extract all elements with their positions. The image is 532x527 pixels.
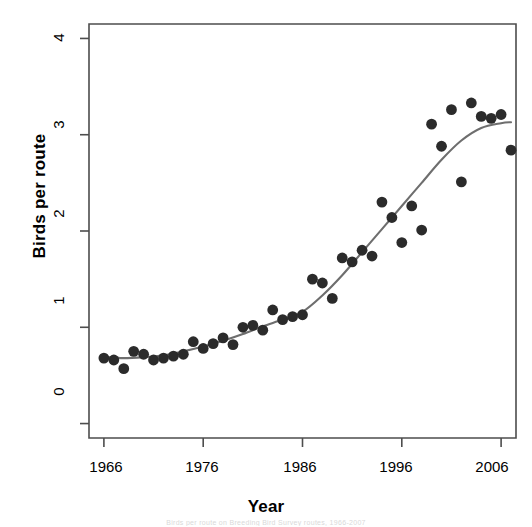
data-point xyxy=(456,177,467,188)
data-point xyxy=(307,274,318,285)
data-point xyxy=(287,311,298,322)
data-point xyxy=(238,322,249,333)
data-point xyxy=(367,251,378,262)
data-point xyxy=(506,145,517,156)
data-points xyxy=(99,98,517,375)
data-point xyxy=(218,332,229,343)
data-point xyxy=(446,104,457,115)
data-point xyxy=(178,349,189,360)
data-point xyxy=(436,141,447,152)
data-point xyxy=(228,339,239,350)
data-point xyxy=(128,346,139,357)
axis-box xyxy=(89,24,516,438)
data-point xyxy=(257,325,268,336)
data-point xyxy=(148,355,159,366)
chart-figure: Birds per route Year Birds per route on … xyxy=(0,0,532,527)
data-point xyxy=(108,355,119,366)
data-point xyxy=(416,225,427,236)
data-point xyxy=(347,256,358,267)
data-point xyxy=(208,338,219,349)
data-point xyxy=(297,309,308,320)
data-point xyxy=(327,293,338,304)
data-point xyxy=(357,245,368,256)
data-point xyxy=(377,197,388,208)
data-point xyxy=(198,343,209,354)
plot-area xyxy=(0,0,532,527)
data-point xyxy=(118,363,129,374)
data-point xyxy=(466,98,477,109)
data-point xyxy=(247,320,258,331)
data-point xyxy=(99,353,110,364)
data-point xyxy=(158,353,169,364)
data-point xyxy=(337,253,348,264)
data-point xyxy=(188,336,199,347)
data-point xyxy=(496,109,507,120)
data-point xyxy=(386,212,397,223)
data-point xyxy=(406,201,417,212)
data-point xyxy=(317,278,328,289)
data-point xyxy=(426,119,437,130)
data-point xyxy=(267,305,278,316)
data-point xyxy=(486,113,497,124)
y-axis-ticks xyxy=(80,38,89,423)
trend-line xyxy=(104,122,511,358)
x-axis-ticks xyxy=(104,438,501,447)
data-point xyxy=(476,111,487,122)
data-point xyxy=(138,349,149,360)
data-point xyxy=(396,237,407,248)
data-point xyxy=(168,351,179,362)
data-point xyxy=(277,314,288,325)
